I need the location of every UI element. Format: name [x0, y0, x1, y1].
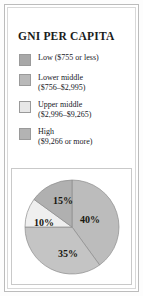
legend-item-low: Low ($755 or less) — [17, 53, 129, 66]
legend-swatch-lower-middle-icon — [19, 74, 31, 86]
legend-item-high: High ($9,266 or more) — [17, 127, 129, 147]
pie-chart-svg: 40%35%10%15% — [24, 179, 120, 275]
pie-slice-label-3: 10% — [34, 217, 54, 228]
pie-chart-panel: 40%35%10%15% — [11, 168, 132, 285]
figure-inner-border: GNI PER CAPITA Low ($755 or less) Lower … — [7, 7, 136, 289]
legend-item-upper-middle: Upper middle ($2,996–$9,265) — [17, 100, 129, 120]
pie-chart: 40%35%10%15% — [24, 179, 120, 275]
pie-slice-label-1: 40% — [80, 214, 100, 225]
legend-swatch-low-icon — [19, 54, 31, 66]
pie-slice-label-2: 35% — [58, 248, 78, 259]
page-title: GNI PER CAPITA — [18, 30, 129, 42]
legend-label-upper-middle: Upper middle ($2,996–$9,265) — [38, 100, 91, 120]
figure-outer-border: GNI PER CAPITA Low ($755 or less) Lower … — [4, 4, 139, 292]
gni-per-capita-figure: GNI PER CAPITA Low ($755 or less) Lower … — [0, 0, 143, 296]
legend-label-lower-middle: Lower middle ($756–$2,995) — [38, 73, 85, 93]
legend-label-low: Low ($755 or less) — [38, 53, 99, 63]
legend-swatch-high-icon — [19, 128, 31, 140]
legend-item-lower-middle: Lower middle ($756–$2,995) — [17, 73, 129, 93]
legend-swatch-upper-middle-icon — [19, 101, 31, 113]
legend-panel: GNI PER CAPITA Low ($755 or less) Lower … — [8, 8, 135, 166]
pie-slice-label-4: 15% — [53, 195, 73, 206]
legend-label-high: High ($9,266 or more) — [38, 127, 92, 147]
